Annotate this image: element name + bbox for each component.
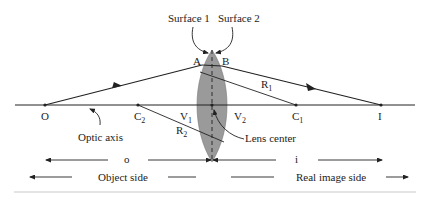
point-lens-center bbox=[210, 103, 213, 106]
refracted-ray bbox=[222, 66, 381, 105]
surface1-pointer bbox=[192, 27, 208, 53]
o-point-label: O bbox=[41, 110, 49, 122]
ray-arrow-icon bbox=[306, 83, 316, 91]
point-c2 bbox=[136, 103, 139, 106]
thin-lens-diagram: Surface 1 Surface 2 A B R1 R2 O C2 V1 V2… bbox=[0, 0, 430, 197]
r1-label: R1 bbox=[261, 78, 272, 93]
real-image-side-label: Real image side bbox=[296, 171, 366, 183]
point-b-label: B bbox=[222, 55, 229, 67]
v2-label: V2 bbox=[234, 110, 246, 125]
o-distance-label: o bbox=[124, 153, 130, 165]
surface2-pointer bbox=[216, 27, 233, 53]
point-a-label: A bbox=[193, 55, 201, 67]
c1-label: C1 bbox=[292, 110, 303, 125]
c2-label: C2 bbox=[134, 110, 145, 125]
point-i bbox=[379, 103, 382, 106]
optic-axis-label: Optic axis bbox=[78, 131, 123, 143]
surface1-label: Surface 1 bbox=[168, 12, 210, 24]
optic-axis-pointer bbox=[90, 109, 100, 125]
surface2-label: Surface 2 bbox=[218, 12, 260, 24]
v1-label: V1 bbox=[180, 110, 192, 125]
r2-label: R2 bbox=[176, 124, 187, 139]
lens-center-label: Lens center bbox=[245, 132, 296, 144]
object-side-label: Object side bbox=[98, 171, 148, 183]
i-distance-label: i bbox=[295, 153, 298, 165]
point-c1 bbox=[294, 103, 297, 106]
incident-ray bbox=[45, 65, 202, 105]
point-o bbox=[43, 103, 46, 106]
i-point-label: I bbox=[378, 110, 382, 122]
